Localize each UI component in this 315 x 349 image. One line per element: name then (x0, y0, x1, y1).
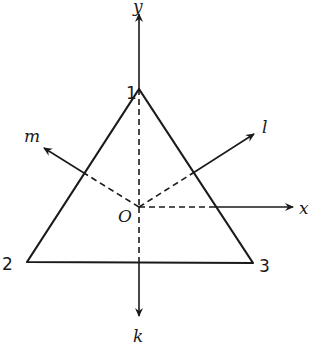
y-axis-label: y (132, 0, 143, 16)
m-axis-arrow (44, 148, 84, 173)
l-axis-arrow (193, 134, 254, 173)
vertex-2-label: 2 (2, 254, 13, 274)
triangle-axes-diagram: 1 2 3 O y x l m k (0, 0, 315, 349)
vertex-3-label: 3 (259, 256, 270, 276)
m-axis-label: m (24, 126, 40, 146)
origin-label: O (118, 206, 132, 226)
x-axis-label: x (299, 198, 309, 218)
triangle (27, 89, 253, 263)
l-axis-label: l (262, 117, 267, 137)
l-axis-dashed (139, 173, 193, 207)
k-axis-label: k (133, 326, 143, 346)
vertex-1-label: 1 (126, 83, 137, 103)
m-axis-dashed (84, 173, 139, 207)
